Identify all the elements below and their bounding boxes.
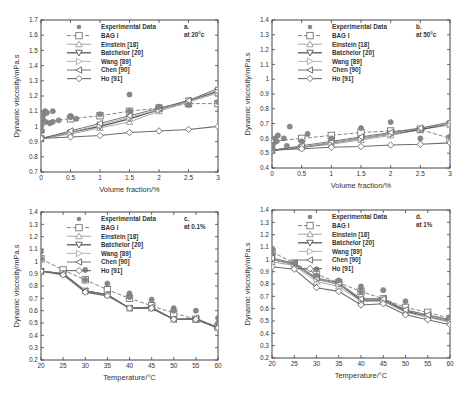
legend-label: Ho [91] (101, 75, 122, 83)
y-tick-label: 0.6 (260, 135, 269, 142)
y-tick-label: 1.1 (260, 243, 269, 250)
experimental-point (97, 112, 102, 117)
y-tick-label: 1.4 (29, 208, 38, 215)
chart-panel-a: 00.511.522.530.70.80.911.11.21.31.41.51.… (0, 0, 234, 196)
experimental-point (40, 128, 45, 133)
x-axis-label: Temperature/°C (103, 373, 156, 382)
y-tick-label: 1.3 (29, 77, 38, 84)
x-tick-label: 3 (448, 170, 452, 177)
experimental-point (186, 103, 191, 108)
legend-label: Wang [89] (101, 58, 131, 66)
experimental-point (215, 99, 220, 104)
experimental-point (381, 288, 386, 293)
x-tick-label: 1 (98, 174, 102, 181)
y-tick-label: 1.4 (260, 206, 269, 213)
legend-label: Wang [89] (101, 250, 131, 258)
legend-label: Ho [91] (332, 75, 353, 83)
chart-panel-c: 2025303540455055600.20.30.40.50.60.70.80… (0, 196, 234, 393)
legend-label: Einstein [18] (101, 41, 138, 49)
experimental-point (305, 131, 310, 136)
experimental-point (358, 125, 363, 130)
experimental-point (447, 134, 452, 139)
legend-label: Batchelor [20] (101, 241, 143, 249)
legend-label: BAG I (101, 32, 119, 39)
legend-label: Ho [91] (332, 265, 353, 273)
experimental-point (269, 251, 274, 256)
experimental-point (336, 278, 341, 283)
y-tick-label: 1.4 (260, 16, 269, 23)
x-tick-label: 55 (192, 362, 200, 369)
experimental-point (74, 116, 79, 121)
x-tick-label: 25 (60, 362, 68, 369)
chart-panel-d: 2025303540455055600.20.30.40.50.60.70.80… (234, 196, 468, 393)
y-tick-label: 0.5 (260, 317, 269, 324)
legend-label: Chen [90] (101, 66, 130, 74)
legend-label: Ho [91] (101, 267, 122, 275)
plot-area (269, 247, 453, 328)
experimental-point (447, 315, 452, 320)
experimental-point (358, 289, 363, 294)
plot-area (269, 119, 453, 154)
legend-label: Experimental Data (101, 23, 156, 31)
x-tick-label: 60 (214, 362, 222, 369)
x-tick-label: 45 (148, 362, 156, 369)
experimental-point (418, 136, 423, 141)
legend-label: Experimental Data (332, 213, 387, 221)
legend-label: Chen [90] (101, 258, 130, 266)
y-tick-label: 0.8 (29, 282, 38, 289)
x-tick-label: 2 (157, 174, 161, 181)
experimental-point (274, 139, 279, 144)
x-tick-label: 40 (357, 360, 365, 367)
y-tick-label: 0.8 (29, 153, 38, 160)
y-tick-label: 1.5 (29, 47, 38, 54)
x-tick-label: 50 (402, 360, 410, 367)
experimental-point (403, 299, 408, 304)
y-tick-label: 1.3 (260, 31, 269, 38)
panel-condition: at 1% (416, 221, 433, 228)
legend-label: Batchelor [20] (332, 49, 374, 57)
x-tick-label: 2.5 (184, 174, 193, 181)
experimental-point (287, 124, 292, 129)
legend-label: BAG I (332, 222, 350, 229)
legend-label: Experimental Data (332, 23, 387, 31)
experimental-point (314, 267, 319, 272)
y-tick-label: 1 (34, 258, 38, 265)
y-tick-label: 0.2 (260, 354, 269, 361)
y-tick-label: 0.4 (260, 330, 269, 337)
y-tick-label: 1.2 (29, 233, 38, 240)
y-axis-label: Dynamic viscosity/mPa.s (12, 54, 21, 137)
y-tick-label: 1.3 (260, 219, 269, 226)
x-tick-label: 0.5 (66, 174, 75, 181)
experimental-point (171, 308, 176, 313)
experimental-point (329, 136, 334, 141)
x-tick-label: 20 (268, 360, 276, 367)
experimental-point (358, 284, 363, 289)
y-tick-label: 0.4 (29, 332, 38, 339)
legend: Experimental DataBAG IEinstein [18]Batch… (298, 213, 387, 273)
experimental-point (193, 308, 198, 313)
experimental-point (292, 260, 297, 265)
experimental-point (38, 249, 43, 254)
y-tick-label: 1 (265, 256, 269, 263)
experimental-point (127, 295, 132, 300)
experimental-point (44, 110, 49, 115)
x-tick-label: 30 (313, 360, 321, 367)
x-tick-label: 2.5 (416, 170, 425, 177)
legend-label: Wang [89] (332, 58, 362, 66)
experimental-point (83, 267, 88, 272)
chart-svg-d: 2025303540455055600.20.30.40.50.60.70.80… (234, 196, 468, 393)
legend-label: Batchelor [20] (332, 239, 374, 247)
y-tick-label: 1.1 (29, 107, 38, 114)
x-tick-label: 40 (126, 362, 134, 369)
experimental-point (127, 109, 132, 114)
legend-label: Einstein [18] (332, 231, 369, 239)
experimental-point (281, 136, 286, 141)
y-tick-label: 1.6 (29, 31, 38, 38)
experimental-point (388, 120, 393, 125)
x-tick-label: 0.5 (297, 170, 306, 177)
x-tick-label: 55 (424, 360, 432, 367)
y-tick-label: 1.7 (29, 16, 38, 23)
y-tick-label: 0.3 (260, 342, 269, 349)
experimental-point (68, 115, 73, 120)
y-tick-label: 1.1 (260, 61, 269, 68)
